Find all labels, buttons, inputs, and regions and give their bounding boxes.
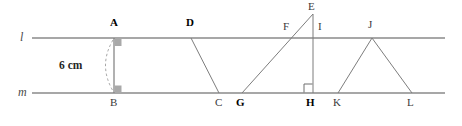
point-label-e: E (308, 1, 315, 12)
segment-jk (338, 38, 372, 93)
measurement-label-6cm: 6 cm (59, 60, 82, 72)
segment-dc (191, 38, 219, 93)
point-label-g: G (236, 97, 245, 108)
point-label-f: F (283, 21, 289, 32)
point-label-k: K (333, 97, 341, 108)
right-angle-mark-a (115, 39, 122, 46)
right-angle-mark-h (304, 84, 313, 93)
point-label-c: C (215, 97, 222, 108)
geometry-diagram: l m A B D C E F G I H J K L 6 cm (0, 0, 462, 126)
point-label-a: A (110, 17, 118, 28)
right-angle-mark-b (115, 86, 122, 93)
point-label-j: J (368, 19, 372, 30)
point-label-i: I (318, 21, 322, 32)
point-label-b: B (110, 97, 117, 108)
point-label-h: H (306, 97, 315, 108)
segment-eg (242, 14, 313, 93)
line-label-l: l (20, 31, 23, 43)
line-label-m: m (18, 86, 27, 98)
point-label-d: D (186, 17, 194, 28)
point-label-l: L (407, 97, 414, 108)
measurement-arc-ab (106, 40, 114, 91)
segment-jl (372, 38, 412, 93)
